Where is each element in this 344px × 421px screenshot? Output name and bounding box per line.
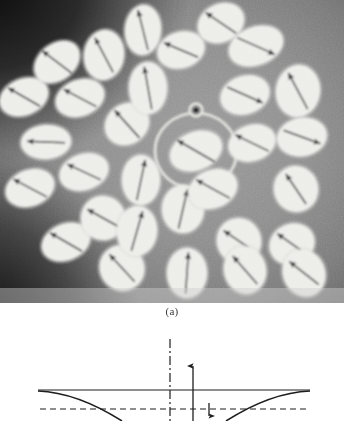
film-grain-overlay [0, 0, 344, 303]
figure-root: (a) [0, 0, 344, 421]
profile-diagram-canvas [0, 326, 344, 421]
micrograph-panel [0, 0, 344, 303]
profile-diagram-panel [0, 326, 344, 421]
profile-curve-right [226, 391, 310, 421]
panel-a-caption: (a) [0, 305, 344, 317]
profile-curve-left [38, 391, 122, 421]
micrograph-canvas [0, 0, 344, 303]
photo-bottom-fade [0, 288, 344, 303]
